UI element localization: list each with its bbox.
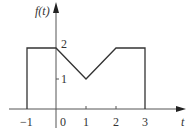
tick-label-3: 3: [142, 115, 148, 129]
function-curve: [27, 48, 145, 109]
x-axis-label: t: [181, 115, 185, 129]
tick-label-neg1: −1: [20, 115, 33, 129]
y-axis-arrow-icon: [53, 2, 59, 13]
tick-label-2: 2: [113, 115, 119, 129]
tick-label-0: 0: [60, 115, 66, 129]
y-axis-label: f(t): [35, 4, 50, 18]
x-axis-arrow-icon: [176, 106, 186, 112]
tick-label-1: 1: [83, 115, 89, 129]
ytick-label-2: 2: [61, 37, 67, 51]
ytick-label-1: 1: [61, 72, 67, 86]
chart: f(t) t −1 0 1 2 3 2 1: [0, 0, 196, 139]
